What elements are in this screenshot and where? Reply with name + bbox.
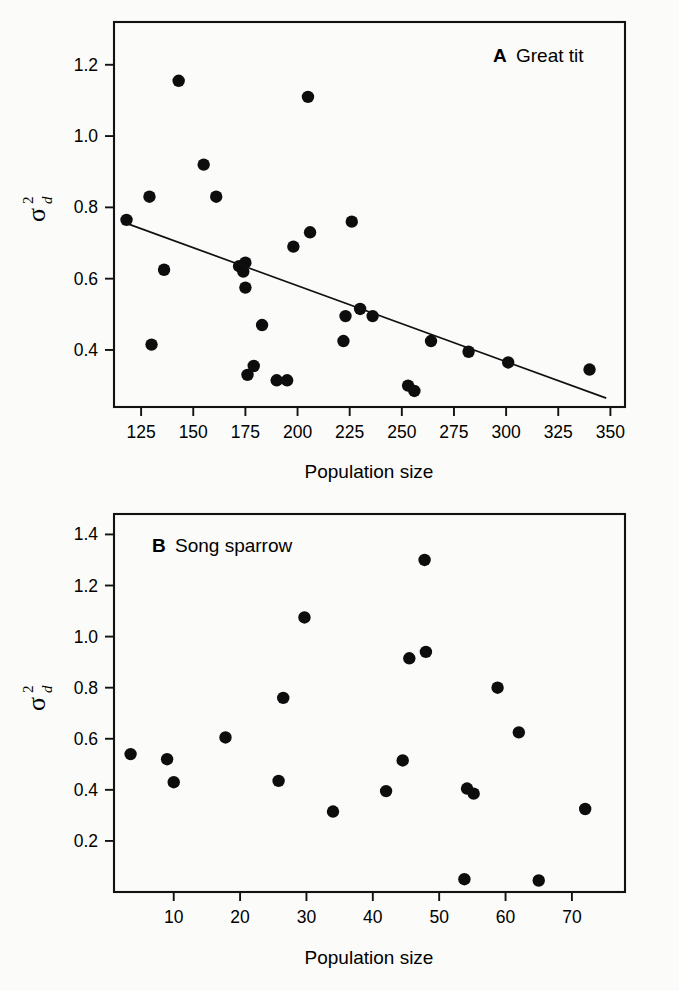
scatter-point xyxy=(467,787,479,799)
x-ticklabel: 200 xyxy=(283,422,312,442)
scatter-point xyxy=(124,748,136,760)
scatter-point xyxy=(491,681,503,693)
panel-b-xlabel: Population size xyxy=(305,947,434,968)
y-ticklabel: 0.4 xyxy=(74,340,99,360)
x-ticklabel: 325 xyxy=(544,422,573,442)
scatter-point xyxy=(172,75,184,87)
panel-b-ylabel-subscript: d xyxy=(39,685,55,693)
scatter-point xyxy=(327,805,339,817)
scatter-point xyxy=(239,281,251,293)
scatter-point xyxy=(403,652,415,664)
y-ticklabel: 0.6 xyxy=(74,269,98,289)
panel-b-x-ticklabels: 10203040506070 xyxy=(164,907,582,927)
scatter-point xyxy=(304,226,316,238)
x-ticklabel: 300 xyxy=(492,422,521,442)
x-ticklabel: 50 xyxy=(429,907,449,927)
panel-b-ylabel-superscript: 2 xyxy=(20,686,36,694)
x-ticklabel: 20 xyxy=(230,907,250,927)
panel-b-x-tickmarks xyxy=(174,892,572,901)
x-ticklabel: 60 xyxy=(496,907,516,927)
panel-a-great-tit: 125150175200225250275300325350 0.40.60.8… xyxy=(0,0,679,492)
y-ticklabel: 1.2 xyxy=(74,55,98,75)
scatter-point xyxy=(339,310,351,322)
x-ticklabel: 350 xyxy=(596,422,625,442)
scatter-point xyxy=(380,785,392,797)
panel-b-svg: 10203040506070 0.20.40.60.81.01.21.4 B S… xyxy=(0,492,679,991)
scatter-point xyxy=(277,692,289,704)
scatter-point xyxy=(298,611,310,623)
scatter-point xyxy=(458,873,470,885)
panel-a-y-ticklabels: 0.40.60.81.01.2 xyxy=(74,55,99,360)
scatter-point xyxy=(210,190,222,202)
scatter-point xyxy=(197,158,209,170)
scatter-point xyxy=(272,775,284,787)
scatter-point xyxy=(158,264,170,276)
scatter-point xyxy=(219,731,231,743)
x-ticklabel: 125 xyxy=(127,422,156,442)
scatter-point xyxy=(583,363,595,375)
panel-a-letter: A xyxy=(493,45,507,66)
panel-a-x-tickmarks xyxy=(141,407,610,416)
y-ticklabel: 0.6 xyxy=(74,729,98,749)
panel-a-y-tickmarks xyxy=(105,65,114,350)
x-ticklabel: 250 xyxy=(387,422,416,442)
scatter-point xyxy=(302,91,314,103)
y-ticklabel: 1.0 xyxy=(74,126,99,146)
x-ticklabel: 175 xyxy=(231,422,260,442)
panel-b-letter: B xyxy=(152,535,166,556)
scatter-point xyxy=(346,215,358,227)
scatter-point xyxy=(533,874,545,886)
scatter-point xyxy=(287,240,299,252)
panel-a-ylabel: σ 2 d xyxy=(20,196,55,222)
panel-b-datapoints xyxy=(124,554,591,887)
x-ticklabel: 150 xyxy=(179,422,208,442)
y-ticklabel: 0.4 xyxy=(74,780,99,800)
y-ticklabel: 1.4 xyxy=(74,524,99,544)
panel-a-xlabel: Population size xyxy=(305,461,434,482)
panel-b-axes xyxy=(114,514,625,892)
x-ticklabel: 275 xyxy=(439,422,468,442)
scatter-point xyxy=(337,335,349,347)
panel-b-plot-frame xyxy=(114,514,625,892)
panel-a-ylabel-superscript: 2 xyxy=(20,197,36,205)
scatter-point xyxy=(161,753,173,765)
scatter-point xyxy=(256,319,268,331)
scatter-point xyxy=(145,338,157,350)
panel-b-y-tickmarks xyxy=(105,534,114,840)
scatter-point xyxy=(513,726,525,738)
scatter-point xyxy=(168,776,180,788)
scatter-point xyxy=(420,646,432,658)
panel-a-datapoints xyxy=(120,75,595,398)
panel-a-x-ticklabels: 125150175200225250275300325350 xyxy=(127,422,626,442)
scatter-point xyxy=(281,374,293,386)
y-ticklabel: 1.2 xyxy=(74,576,98,596)
x-ticklabel: 225 xyxy=(335,422,364,442)
panel-b-ylabel-sigma: σ xyxy=(22,697,51,711)
y-ticklabel: 0.2 xyxy=(74,831,98,851)
panel-a-ylabel-sigma: σ xyxy=(22,208,51,222)
x-ticklabel: 40 xyxy=(363,907,383,927)
panel-b-title: Song sparrow xyxy=(175,535,293,556)
x-ticklabel: 70 xyxy=(562,907,582,927)
scatter-point xyxy=(579,803,591,815)
panel-a-plot-frame xyxy=(114,22,625,407)
y-ticklabel: 1.0 xyxy=(74,627,99,647)
panel-b-song-sparrow: 10203040506070 0.20.40.60.81.01.21.4 B S… xyxy=(0,492,679,991)
panel-a-title: Great tit xyxy=(516,45,584,66)
scatter-point xyxy=(248,360,260,372)
panel-a-ylabel-subscript: d xyxy=(39,196,55,204)
panel-b-y-ticklabels: 0.20.40.60.81.01.21.4 xyxy=(74,524,99,850)
panel-a-svg: 125150175200225250275300325350 0.40.60.8… xyxy=(0,0,679,492)
panel-b-ylabel: σ 2 d xyxy=(20,685,55,711)
panel-a-axes xyxy=(114,22,625,407)
panel-a-regression-line xyxy=(127,223,607,398)
y-ticklabel: 0.8 xyxy=(74,678,98,698)
scatter-point xyxy=(143,190,155,202)
scatter-point xyxy=(408,385,420,397)
figure-container: 125150175200225250275300325350 0.40.60.8… xyxy=(0,0,679,991)
x-ticklabel: 30 xyxy=(297,907,317,927)
x-ticklabel: 10 xyxy=(164,907,184,927)
y-ticklabel: 0.8 xyxy=(74,197,98,217)
scatter-point xyxy=(418,554,430,566)
scatter-point xyxy=(396,754,408,766)
